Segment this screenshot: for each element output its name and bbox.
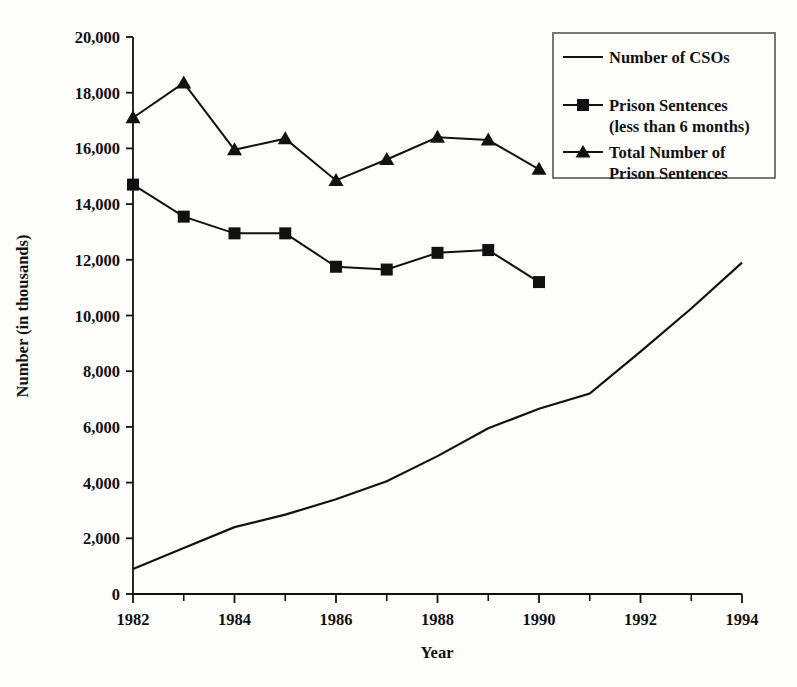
data-point-square — [330, 261, 342, 273]
y-axis-tick-label: 6,000 — [83, 418, 120, 437]
y-axis-tick-label: 14,000 — [75, 195, 120, 214]
line-chart: 02,0004,0006,0008,00010,00012,00014,0001… — [0, 0, 797, 687]
legend-label: Number of CSOs — [609, 48, 730, 67]
x-axis-tick-label: 1984 — [218, 610, 251, 629]
y-axis-tick-label: 4,000 — [83, 474, 120, 493]
data-point-square — [432, 247, 444, 259]
data-point-square — [279, 227, 291, 239]
y-axis-tick-label: 8,000 — [83, 362, 120, 381]
data-point-square — [381, 264, 393, 276]
x-axis-title: Year — [421, 643, 454, 662]
data-point-square — [229, 227, 241, 239]
y-axis-tick-label: 16,000 — [75, 139, 120, 158]
legend-label: Prison Sentences — [609, 96, 728, 115]
data-point-square — [127, 179, 139, 191]
y-axis-tick-label: 10,000 — [75, 307, 120, 326]
data-point-square — [178, 211, 190, 223]
y-axis-tick-label: 20,000 — [75, 28, 120, 47]
x-axis-tick-label: 1988 — [421, 610, 454, 629]
legend-label-second-line: (less than 6 months) — [609, 117, 750, 136]
x-axis-tick-label: 1994 — [726, 610, 759, 629]
x-axis-tick-label: 1982 — [117, 610, 150, 629]
y-axis-tick-label: 2,000 — [83, 529, 120, 548]
y-axis-title: Number (in thousands) — [13, 235, 32, 398]
y-axis-tick-label: 0 — [112, 585, 120, 604]
data-point-square — [533, 276, 545, 288]
y-axis-tick-label: 12,000 — [75, 251, 120, 270]
y-axis-tick-label: 18,000 — [75, 84, 120, 103]
chart-canvas: 02,0004,0006,0008,00010,00012,00014,0001… — [0, 0, 797, 687]
data-point-square — [482, 244, 494, 256]
x-axis-tick-label: 1992 — [624, 610, 657, 629]
legend-label-second-line: Prison Sentences — [609, 164, 728, 183]
legend-square-icon — [577, 99, 589, 111]
x-axis-tick-label: 1986 — [320, 610, 353, 629]
x-axis-tick-label: 1990 — [523, 610, 556, 629]
legend-label: Total Number of — [609, 143, 726, 162]
